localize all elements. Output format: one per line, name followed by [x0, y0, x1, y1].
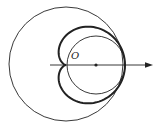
- center-point: [94, 63, 97, 66]
- diagram: O: [0, 0, 163, 128]
- arrow-head-icon: [145, 62, 153, 67]
- diagram-canvas: [0, 0, 163, 128]
- origin-label: O: [71, 50, 79, 61]
